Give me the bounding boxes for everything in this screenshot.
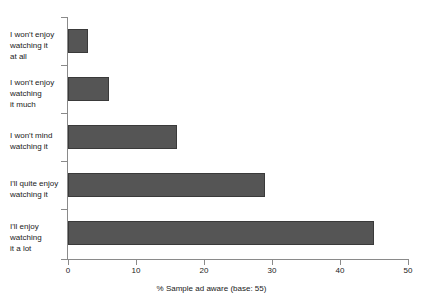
y-axis-tick bbox=[61, 17, 68, 18]
category-label: I won't enjoywatching itat all bbox=[10, 29, 66, 62]
y-axis-tick bbox=[61, 113, 68, 114]
x-axis-tick-label: 10 bbox=[121, 266, 151, 276]
x-axis-tick bbox=[68, 259, 69, 265]
y-axis-tick bbox=[61, 65, 68, 66]
x-axis-tick-label: 40 bbox=[325, 266, 355, 276]
y-axis-tick bbox=[61, 209, 68, 210]
bar[interactable] bbox=[68, 29, 88, 53]
x-axis-tick bbox=[272, 259, 273, 265]
bar-chart: 0 10 20 30 40 50 I won't enjoywatching i… bbox=[0, 0, 423, 303]
x-axis-tick-label: 30 bbox=[257, 266, 287, 276]
x-axis-line bbox=[67, 259, 409, 260]
x-axis-tick bbox=[204, 259, 205, 265]
x-axis-tick-label: 50 bbox=[393, 266, 423, 276]
x-axis-tick bbox=[136, 259, 137, 265]
category-label: I'll enjoywatchingit a lot bbox=[10, 221, 66, 254]
x-axis-tick bbox=[340, 259, 341, 265]
y-axis-tick bbox=[61, 259, 68, 260]
bar[interactable] bbox=[68, 125, 177, 149]
category-label: I won't enjoywatchingit much bbox=[10, 77, 66, 110]
x-axis-tick-label: 0 bbox=[53, 266, 83, 276]
bar[interactable] bbox=[68, 77, 109, 101]
x-axis-title: % Sample ad aware (base: 55) bbox=[0, 283, 423, 294]
x-axis-tick bbox=[408, 259, 409, 265]
y-axis-tick bbox=[61, 161, 68, 162]
bar[interactable] bbox=[68, 173, 265, 197]
bar[interactable] bbox=[68, 221, 374, 245]
x-axis-tick-label: 20 bbox=[189, 266, 219, 276]
category-label: I'll quite enjoywatching it bbox=[10, 178, 66, 200]
category-label: I won't mindwatching it bbox=[10, 130, 66, 152]
